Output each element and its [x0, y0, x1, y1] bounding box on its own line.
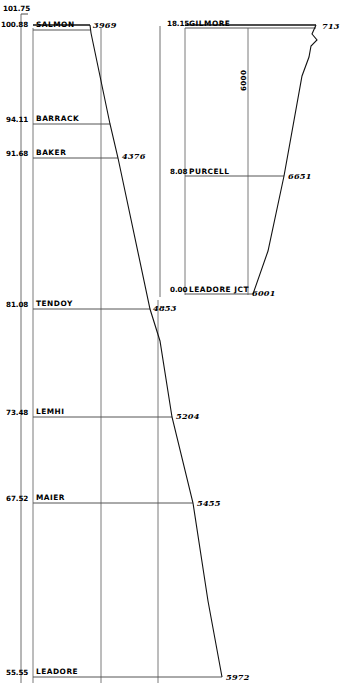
station-name-leadore-jct: LEADORE JCT: [189, 285, 249, 294]
panel-gilmore-branch: 18.15 8.08 0.00 GILMORE PURCELL LEADORE …: [160, 19, 340, 298]
elevation-label-lemhi: 5204: [176, 411, 200, 421]
station-name-tendoy: TENDOY: [36, 299, 73, 308]
elevation-label-leadore-jct: 6001: [252, 288, 276, 298]
profile-line-salmon: [90, 25, 222, 677]
profile-svg: 101.75 100.88 94.11 91.68 81.08 73.48 67…: [0, 0, 343, 683]
station-name-baker: BAKER: [36, 148, 66, 157]
milepost-label-lemhi: 73.48: [6, 408, 28, 417]
milepost-label-leadore: 55.55: [6, 668, 28, 677]
station-name-barrack: BARRACK: [36, 114, 79, 123]
milepost-label-purcell: 8.08: [170, 167, 187, 176]
grid-label-6000: 6000: [239, 70, 248, 91]
station-name-leadore: LEADORE: [36, 667, 78, 676]
profile-line-gilmore: [253, 25, 317, 294]
elevation-label-purcell: 6651: [288, 171, 312, 181]
elevation-label-gilmore: 713: [322, 21, 340, 31]
milepost-label-baker: 91.68: [6, 149, 28, 158]
station-name-gilmore: GILMORE: [189, 19, 230, 28]
milepost-label-axis-top: 101.75: [3, 4, 30, 13]
elevation-label-salmon: 3969: [93, 20, 117, 30]
milepost-label-gilmore: 18.15: [167, 19, 189, 28]
station-name-purcell: PURCELL: [189, 167, 230, 176]
elevation-label-baker: 4376: [122, 151, 146, 161]
milepost-label-tendoy: 81.08: [6, 300, 28, 309]
milepost-label-barrack: 94.11: [6, 115, 28, 124]
station-name-maier: MAIER: [36, 493, 65, 502]
elevation-label-leadore: 5972: [226, 672, 250, 682]
elevation-label-maier: 5455: [197, 498, 221, 508]
elevation-profile-figure: 101.75 100.88 94.11 91.68 81.08 73.48 67…: [0, 0, 343, 683]
elevation-label-tendoy: 4853: [153, 303, 177, 313]
milepost-label-leadore-jct: 0.00: [170, 285, 187, 294]
panel-salmon-branch: 101.75 100.88 94.11 91.68 81.08 73.48 67…: [1, 4, 250, 683]
milepost-label-maier: 67.52: [6, 494, 28, 503]
station-name-lemhi: LEMHI: [36, 407, 65, 416]
station-name-salmon: SALMON: [36, 20, 75, 29]
milepost-label-salmon: 100.88: [1, 20, 28, 29]
